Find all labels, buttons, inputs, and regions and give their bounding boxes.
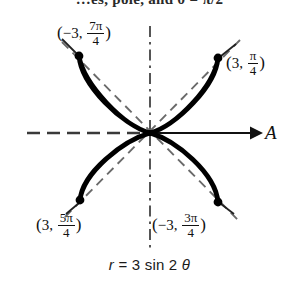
tip-dot-5pi-4 [76, 196, 85, 205]
point-label-pi-4: (3, π 4 ) [226, 50, 265, 79]
paren-close: ) [259, 53, 265, 72]
radius-value: −3 [158, 217, 174, 233]
comma: , [79, 25, 83, 41]
angle-fraction: π 4 [248, 49, 259, 78]
caption-theta: θ [182, 256, 190, 273]
point-label-7pi-4: (−3, 7π 4 ) [57, 20, 111, 49]
fraction-denominator: 4 [61, 226, 72, 240]
paren-close: ) [105, 23, 111, 42]
angle-fraction: 5π 4 [58, 211, 75, 240]
paren-close: ) [76, 215, 82, 234]
comma: , [49, 217, 53, 233]
fraction-denominator: 4 [248, 64, 259, 78]
fraction-numerator: 7π [87, 19, 104, 33]
caption-variable-r: r [109, 256, 114, 273]
leader-line-bottom-right [221, 204, 234, 214]
fraction-denominator: 4 [185, 226, 196, 240]
axis-label-a: A [265, 122, 277, 144]
figure-caption: r = 3 sin 2 θ [0, 256, 299, 273]
tip-dot-3pi-4 [214, 198, 223, 207]
comma: , [174, 217, 178, 233]
point-label-3pi-4: (−3, 3π 4 ) [152, 212, 206, 241]
paren-close: ) [200, 215, 206, 234]
angle-fraction: 7π 4 [87, 19, 104, 48]
polar-rose-figure: …es, pole, and θ = π/2 [0, 0, 299, 289]
angle-fraction: 3π 4 [182, 211, 199, 240]
tip-dot-pi-4 [214, 54, 223, 63]
axis-arrowhead-icon [250, 127, 263, 140]
radius-value: −3 [63, 25, 79, 41]
caption-function: sin [145, 256, 165, 273]
comma: , [239, 55, 243, 71]
pole-point [147, 130, 153, 136]
fraction-denominator: 4 [90, 34, 101, 48]
fraction-numerator: π [248, 49, 259, 63]
tip-dot-7pi-4 [75, 52, 84, 61]
caption-multiplier: 2 [169, 256, 178, 273]
caption-coefficient: 3 [132, 256, 141, 273]
petal-lower-right [150, 133, 218, 202]
caption-equals: = [118, 256, 127, 273]
point-label-5pi-4: (3, 5π 4 ) [36, 212, 81, 241]
fraction-numerator: 3π [182, 211, 199, 225]
fraction-numerator: 5π [58, 211, 75, 225]
polar-plot-canvas [0, 0, 299, 289]
